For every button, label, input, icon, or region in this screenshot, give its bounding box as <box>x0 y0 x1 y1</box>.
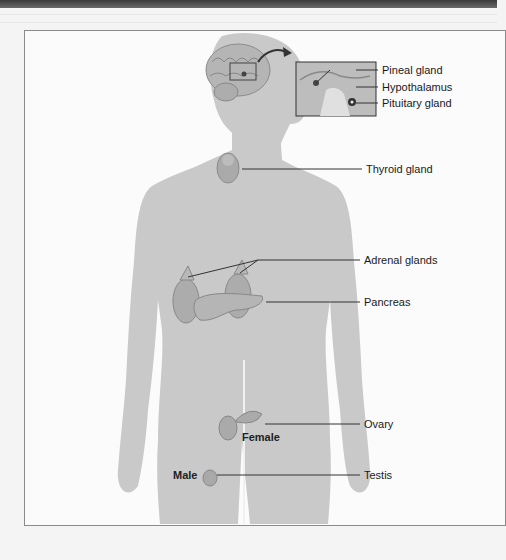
label-adrenal-glands: Adrenal glands <box>364 254 437 266</box>
label-pineal-gland: Pineal gland <box>382 64 443 76</box>
thyroid-illustration <box>217 153 239 183</box>
label-testis: Testis <box>364 469 392 481</box>
label-pituitary-gland: Pituitary gland <box>382 97 452 109</box>
label-thyroid-gland: Thyroid gland <box>366 163 433 175</box>
label-hypothalamus: Hypothalamus <box>382 81 452 93</box>
label-male: Male <box>173 469 197 481</box>
label-female: Female <box>242 431 280 443</box>
label-ovary: Ovary <box>364 418 393 430</box>
label-pancreas: Pancreas <box>364 296 410 308</box>
testis-illustration <box>203 470 217 486</box>
